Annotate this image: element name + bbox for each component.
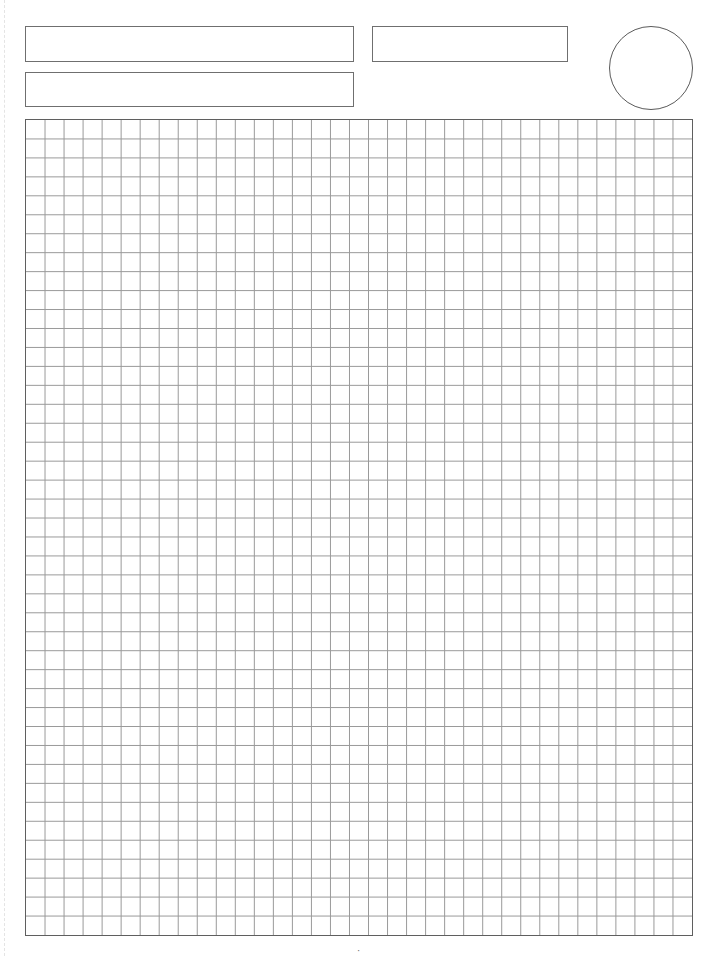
page-footer-mark: · — [0, 944, 717, 956]
grid-paper-area[interactable] — [25, 119, 693, 936]
date-field-box[interactable] — [372, 26, 568, 62]
name-field-box[interactable] — [25, 26, 354, 62]
grid-lines — [26, 120, 692, 935]
subject-field-box[interactable] — [25, 72, 354, 107]
score-circle[interactable] — [609, 26, 693, 110]
margin-guide-line — [4, 0, 5, 956]
